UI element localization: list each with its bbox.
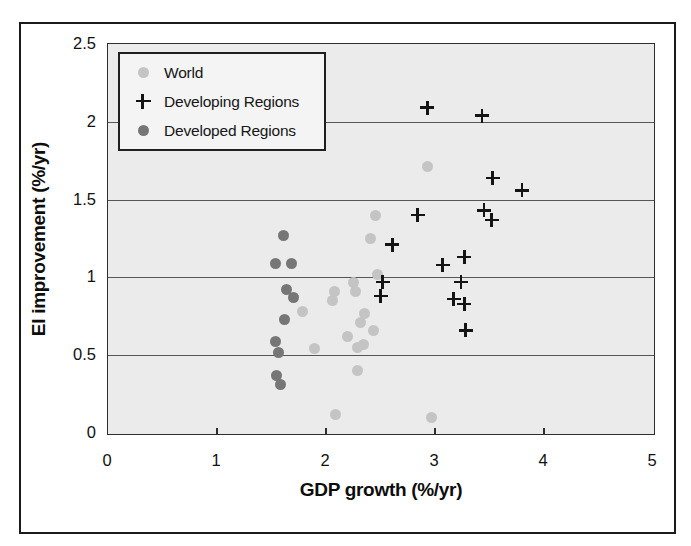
x-tick-label-2: 2 xyxy=(320,452,329,469)
data-point-developed-regions xyxy=(273,347,284,358)
data-point-developed-regions xyxy=(279,314,290,325)
data-point-developing-regions xyxy=(485,213,499,227)
x-tick-label-3: 3 xyxy=(429,452,438,469)
legend: World Developing Regions Developed Regio… xyxy=(118,52,326,151)
data-point-developing-regions xyxy=(374,289,388,303)
x-tick-label-0: 0 xyxy=(102,452,111,469)
data-point-developed-regions xyxy=(270,258,281,269)
x-tick-label-1: 1 xyxy=(211,452,220,469)
data-point-developing-regions xyxy=(385,238,399,252)
data-point-developing-regions xyxy=(475,109,489,123)
x-tick-label-5: 5 xyxy=(647,452,656,469)
data-point-developed-regions xyxy=(278,230,289,241)
x-tick-mark-4 xyxy=(543,428,545,434)
data-point-world xyxy=(327,295,338,306)
legend-label-developed-regions: Developed Regions xyxy=(164,123,296,139)
data-point-world xyxy=(355,317,366,328)
x-tick-mark-1 xyxy=(216,428,218,434)
data-point-developing-regions xyxy=(376,275,390,289)
y-tick-label-0.5: 0.5 xyxy=(54,344,96,364)
y-tick-label-2.5: 2.5 xyxy=(54,33,96,53)
x-tick-mark-2 xyxy=(325,428,327,434)
world-marker-icon xyxy=(132,67,154,78)
y-axis-title: EI improvement (%/yr) xyxy=(28,142,50,336)
x-tick-label-4: 4 xyxy=(538,452,547,469)
data-point-world xyxy=(330,409,341,420)
data-point-developing-regions xyxy=(459,323,473,337)
data-point-developing-regions xyxy=(420,101,434,115)
data-point-world xyxy=(352,365,363,376)
developed-marker-icon xyxy=(132,125,154,136)
data-point-world xyxy=(365,233,376,244)
data-point-developing-regions xyxy=(454,275,468,289)
legend-item-developed-regions: Developed Regions xyxy=(132,123,320,139)
data-point-world xyxy=(342,331,353,342)
data-point-world xyxy=(352,342,363,353)
data-point-developed-regions xyxy=(286,258,297,269)
legend-label-developing-regions: Developing Regions xyxy=(164,94,299,110)
y-tick-label-0: 0 xyxy=(54,422,96,442)
plus-marker-icon xyxy=(132,94,154,109)
data-point-world xyxy=(370,210,381,221)
legend-item-world: World xyxy=(132,65,320,81)
gridline-y-1.5 xyxy=(108,200,654,201)
legend-label-world: World xyxy=(164,65,203,81)
data-point-world xyxy=(350,286,361,297)
data-point-world xyxy=(368,325,379,336)
data-point-world xyxy=(309,343,320,354)
data-point-developing-regions xyxy=(457,297,471,311)
y-tick-label-1.5: 1.5 xyxy=(54,189,96,209)
data-point-world xyxy=(426,412,437,423)
gridline-y-0.5 xyxy=(108,355,654,356)
x-tick-mark-3 xyxy=(434,428,436,434)
data-point-developing-regions xyxy=(457,250,471,264)
data-point-world xyxy=(297,306,308,317)
data-point-developed-regions xyxy=(275,379,286,390)
y-tick-label-2: 2 xyxy=(54,111,96,131)
data-point-world xyxy=(422,161,433,172)
legend-item-developing-regions: Developing Regions xyxy=(132,94,320,110)
data-point-developing-regions xyxy=(436,258,450,272)
y-tick-label-1: 1 xyxy=(54,266,96,286)
data-point-developing-regions xyxy=(411,208,425,222)
x-axis-title: GDP growth (%/yr) xyxy=(107,479,655,501)
data-point-developing-regions xyxy=(515,183,529,197)
data-point-developed-regions xyxy=(270,336,281,347)
data-point-developed-regions xyxy=(288,292,299,303)
data-point-developing-regions xyxy=(486,171,500,185)
